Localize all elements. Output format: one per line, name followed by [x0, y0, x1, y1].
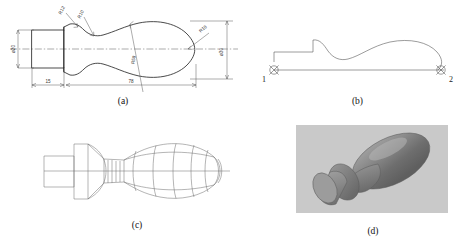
caption-panel-d: (d): [292, 226, 454, 236]
dim-label-d20: ø20: [11, 45, 16, 53]
leader-line-r18: [188, 33, 209, 49]
generatrix-profile: [274, 40, 442, 70]
wireframe-flange: [74, 144, 88, 199]
dim-label-r18: R18: [198, 24, 208, 34]
engineering-figure: ø20 ø30 15 78 R12 R10: [0, 0, 467, 250]
dim-label-d30: ø30: [219, 48, 224, 56]
caption-panel-a: (a): [2, 96, 244, 106]
axis-endpoint-label-2: 2: [449, 75, 453, 84]
wireframe-neck-upper: [88, 144, 104, 199]
wireframe-rib-top-edge: [104, 159, 124, 160]
wireframe-meridian-top: [124, 152, 214, 160]
leader-line-r10: [84, 17, 94, 36]
body-outline: [64, 22, 195, 78]
dim-label-r58: R58: [130, 55, 137, 65]
panel-a-dimensioned-profile-drawing: ø20 ø30 15 78 R12 R10: [2, 2, 244, 94]
dim-label-r12: R12: [57, 5, 66, 15]
wireframe-rib-bottom-edge: [104, 182, 124, 183]
panel-b-generatrix-curve: 1 2: [250, 14, 465, 92]
caption-panel-b: (b): [250, 96, 465, 106]
caption-panel-c: (c): [28, 220, 246, 230]
panel-c-wireframe-surface-model: [28, 126, 246, 216]
dim-label-r10: R10: [76, 9, 85, 19]
dim-label-15: 15: [45, 79, 51, 84]
wireframe-shank: [44, 156, 74, 187]
axis-endpoint-label-1: 1: [262, 75, 266, 84]
dim-label-78: 78: [128, 79, 134, 84]
wireframe-meridian-bottom: [124, 182, 214, 190]
panel-d-shaded-solid-render: [292, 122, 454, 222]
